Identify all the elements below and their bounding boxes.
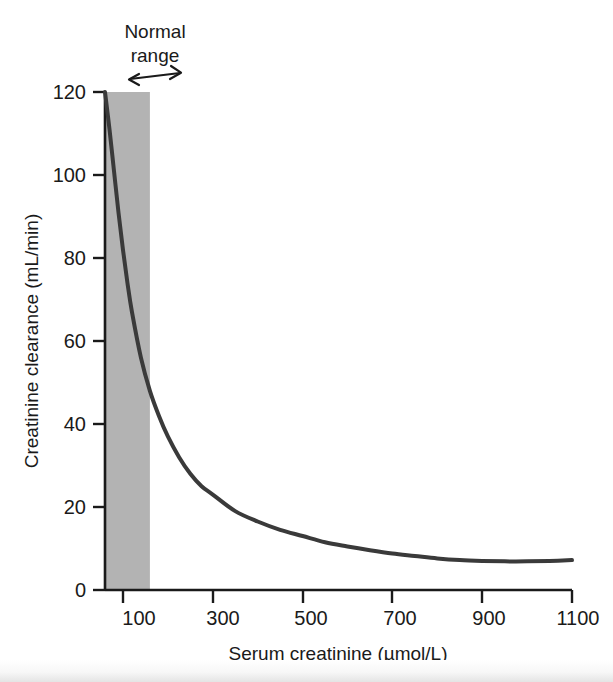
normal-range-label-line2: range: [131, 45, 180, 66]
x-axis-ticks: [123, 590, 572, 603]
x-tick-label-1100: 1100: [556, 607, 599, 629]
chart-canvas: Normal range 120 100 80 60 40 20 0: [0, 0, 613, 682]
x-tick-label-900: 900: [472, 607, 505, 629]
y-tick-label-60: 60: [64, 330, 86, 352]
y-tick-label-80: 80: [64, 247, 86, 269]
page-edge-shadow: [0, 660, 613, 682]
x-tick-label-700: 700: [383, 607, 416, 629]
x-tick-label-500: 500: [294, 607, 327, 629]
y-tick-label-40: 40: [64, 413, 86, 435]
y-tick-label-0: 0: [75, 579, 86, 601]
x-tick-label-300: 300: [206, 607, 239, 629]
creatinine-clearance-chart: Normal range 120 100 80 60 40 20 0: [0, 0, 613, 682]
y-tick-label-100: 100: [53, 164, 86, 186]
y-tick-label-120: 120: [53, 81, 86, 103]
normal-range-arrow-icon: [129, 66, 181, 85]
x-tick-label-100: 100: [122, 607, 155, 629]
y-axis-title: Creatinine clearance (mL/min): [21, 214, 42, 469]
y-axis-ticks: [93, 92, 105, 590]
normal-range-label-line1: Normal: [124, 21, 185, 42]
creatinine-clearance-curve: [105, 92, 572, 561]
y-tick-label-20: 20: [64, 496, 86, 518]
